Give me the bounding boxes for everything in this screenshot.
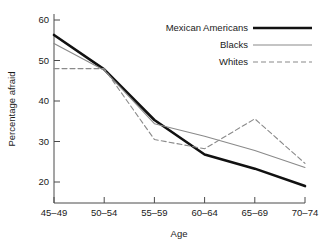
y-tick-label-20: 20 bbox=[38, 176, 49, 187]
line-chart: 2030405060 45–4950–5455–5960–6465–6970–7… bbox=[0, 0, 324, 247]
y-tick-label-60: 60 bbox=[38, 14, 49, 25]
x-tick-label-55-59: 55–59 bbox=[141, 207, 167, 218]
y-axis-title: Percentage afraid bbox=[6, 72, 17, 147]
x-tick-label-60-64: 60–64 bbox=[191, 207, 217, 218]
legend-label-mexican-americans: Mexican Americans bbox=[166, 22, 249, 33]
x-axis-ticks bbox=[54, 197, 305, 203]
x-tick-label-70-74: 70–74 bbox=[292, 207, 318, 218]
data-series-group bbox=[54, 35, 305, 186]
chart-legend: Mexican AmericansBlacksWhites bbox=[166, 22, 312, 67]
x-axis-title: Age bbox=[171, 228, 188, 239]
chart-figure: 2030405060 45–4950–5455–5960–6465–6970–7… bbox=[0, 0, 324, 247]
y-tick-label-30: 30 bbox=[38, 136, 49, 147]
series-line-whites bbox=[54, 69, 305, 164]
x-tick-label-50-54: 50–54 bbox=[91, 207, 117, 218]
x-axis-tick-labels: 45–4950–5455–5960–6465–6970–74 bbox=[41, 207, 318, 218]
y-tick-label-50: 50 bbox=[38, 55, 49, 66]
y-tick-label-40: 40 bbox=[38, 95, 49, 106]
x-tick-label-45-49: 45–49 bbox=[41, 207, 67, 218]
x-tick-label-65-69: 65–69 bbox=[242, 207, 268, 218]
legend-label-whites: Whites bbox=[219, 56, 248, 67]
y-axis-tick-labels: 2030405060 bbox=[38, 14, 49, 187]
legend-label-blacks: Blacks bbox=[220, 39, 248, 50]
series-line-mexican-americans bbox=[54, 35, 305, 186]
